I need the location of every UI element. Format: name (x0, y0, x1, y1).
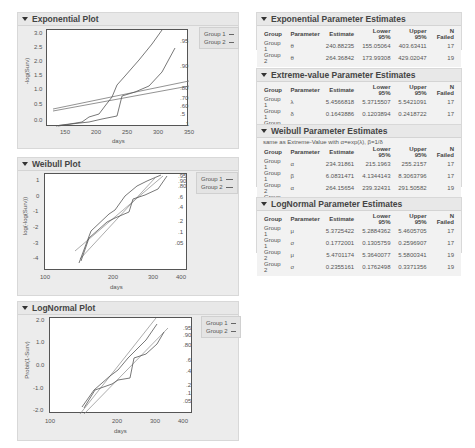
table-row: Group 2α264.15654239.32431291.5058219 (261, 182, 457, 194)
lognormal-plot-area (49, 317, 192, 413)
y-axis-label: -log(Surv) (24, 58, 30, 84)
table-row: Group 1λ5.45668185.37155075.542109117 (261, 96, 457, 108)
extreme-value-estimates-panel: Extreme-value Parameter Estimates GroupP… (256, 68, 462, 124)
table-row: Group 1δ0.16438860.12038940.241872217 (261, 108, 457, 120)
exponential-plot-header[interactable]: Exponential Plot (18, 13, 238, 26)
exponential-estimates-header[interactable]: Exponential Parameter Estimates (257, 13, 461, 26)
weibull-note: same as Extreme-Value with α=exp(λ), β=1… (257, 138, 461, 146)
weibull-plot-area (44, 173, 187, 270)
table-row: Group 1β6.08314714.13441438.306379617 (261, 170, 457, 182)
exponential-legend: Group 1 Group 2 (199, 27, 239, 49)
panel-title: Exponential Parameter Estimates (271, 13, 406, 25)
x-axis-label: days (114, 428, 127, 434)
disclosure-triangle-icon[interactable] (261, 202, 267, 206)
exponential-plot-area (46, 29, 188, 126)
disclosure-triangle-icon[interactable] (261, 73, 267, 77)
table-row: Group 1σ0.17720010.13057590.259690717 (261, 237, 457, 249)
table-row: Group 1θ240.88235155.05064403.6341117 (261, 40, 457, 52)
weibull-plot-header[interactable]: Weibull Plot (18, 158, 238, 171)
extreme-value-estimates-header[interactable]: Extreme-value Parameter Estimates (257, 69, 461, 82)
exponential-plot-panel: Exponential Plot 3.0 2.5 2.0 1.5 1.0 0.5… (17, 12, 239, 149)
disclosure-triangle-icon[interactable] (22, 162, 28, 166)
legend-item[interactable]: Group 1 (201, 175, 233, 183)
disclosure-triangle-icon[interactable] (261, 129, 267, 133)
panel-title: Weibull Parameter Estimates (271, 125, 388, 137)
legend-item[interactable]: Group 2 (204, 38, 234, 46)
legend-item[interactable]: Group 2 (201, 183, 233, 191)
table-row: Group 2θ264.36842173.99308429.0204719 (261, 52, 457, 64)
panel-title: Extreme-value Parameter Estimates (271, 69, 416, 81)
panel-title: Exponential Plot (32, 13, 99, 25)
table-row: Group 1μ5.37254225.28843625.460570517 (261, 225, 457, 237)
disclosure-triangle-icon[interactable] (22, 306, 28, 310)
panel-title: Weibull Plot (32, 158, 80, 170)
disclosure-triangle-icon[interactable] (261, 17, 267, 21)
weibull-plot-panel: Weibull Plot 1 0 -1 -2 -3 -4 log(-log(Su… (17, 157, 239, 296)
legend-item[interactable]: Group 1 (206, 319, 236, 327)
table-row: Group 1α234.31861215.1963255.215717 (261, 158, 457, 170)
table-row: Group 2σ0.23551610.17624980.337135619 (261, 261, 457, 273)
lognormal-legend: Group 1 Group 2 (201, 316, 241, 338)
legend-item[interactable]: Group 1 (204, 30, 234, 38)
disclosure-triangle-icon[interactable] (22, 17, 28, 21)
weibull-legend: Group 1 Group 2 (196, 172, 238, 194)
x-axis-label: days (110, 284, 123, 290)
lognormal-estimates-panel: LogNormal Parameter Estimates GroupParam… (256, 197, 462, 253)
weibull-estimates-header[interactable]: Weibull Parameter Estimates (257, 125, 461, 138)
exponential-estimates-panel: Exponential Parameter Estimates GroupPar… (256, 12, 462, 50)
legend-item[interactable]: Group 2 (206, 327, 236, 335)
weibull-chart-svg (45, 174, 188, 271)
exponential-estimates-table: GroupParameterEstimateLower 95%Upper 95%… (261, 28, 457, 64)
panel-title: LogNormal Parameter Estimates (271, 198, 402, 210)
y-axis-label: Probit(1-Surv) (24, 341, 30, 378)
exponential-chart-svg (47, 30, 189, 127)
lognormal-plot-header[interactable]: LogNormal Plot (18, 302, 238, 315)
weibull-estimates-panel: Weibull Parameter Estimates same as Extr… (256, 124, 462, 187)
panel-title: LogNormal Plot (32, 302, 95, 314)
lognormal-plot-panel: LogNormal Plot 2.0 1.0 0.0 -1.0 -2.0 Pro… (17, 301, 239, 441)
x-axis-label: days (112, 138, 125, 144)
table-row: Group 2μ5.47011745.36400775.580034119 (261, 249, 457, 261)
lognormal-estimates-header[interactable]: LogNormal Parameter Estimates (257, 198, 461, 211)
lognormal-estimates-table: GroupParameterEstimateLower 95%Upper 95%… (261, 213, 457, 273)
y-axis-label: log(-log(Surv)) (22, 197, 28, 235)
lognormal-chart-svg (50, 318, 193, 414)
